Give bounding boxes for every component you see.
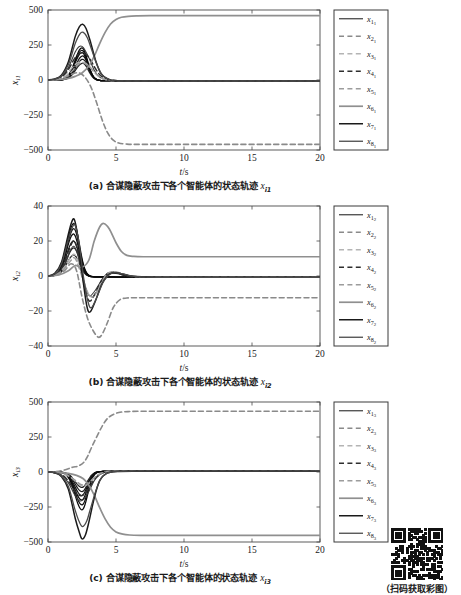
svg-text:10: 10 xyxy=(179,545,189,555)
caption-subscript: i2 xyxy=(265,382,272,390)
caption-subscript: i1 xyxy=(265,186,272,194)
svg-text:500: 500 xyxy=(29,5,44,15)
svg-text:0: 0 xyxy=(38,271,43,281)
svg-text:−250: −250 xyxy=(23,110,43,120)
svg-text:10: 10 xyxy=(179,349,189,359)
svg-text:20: 20 xyxy=(315,153,325,163)
panel-caption-b: (b) 合谋隐蔽攻击下各个智能体的状态轨迹 xi2 xyxy=(0,374,360,390)
svg-text:−20: −20 xyxy=(28,306,43,316)
svg-text:15: 15 xyxy=(247,349,257,359)
svg-text:t/s: t/s xyxy=(180,559,189,569)
svg-text:t/s: t/s xyxy=(180,167,189,177)
qr-caption: （扫码获取彩图） xyxy=(374,582,460,595)
svg-text:xi2: xi2 xyxy=(9,271,21,282)
svg-text:5: 5 xyxy=(114,349,119,359)
caption-subscript: i3 xyxy=(264,578,271,586)
chart-panel-b: 05101520−40−2002040t/sxi2x12x22x32x42x52… xyxy=(0,196,461,391)
svg-text:20: 20 xyxy=(315,349,325,359)
svg-text:0: 0 xyxy=(38,75,43,85)
svg-text:t/s: t/s xyxy=(180,363,189,373)
svg-text:10: 10 xyxy=(179,153,189,163)
svg-text:5: 5 xyxy=(114,545,119,555)
svg-text:15: 15 xyxy=(247,153,257,163)
chart-svg-a: 05101520−500−2500250500t/sxi1x11x21x31x4… xyxy=(0,0,461,178)
svg-text:15: 15 xyxy=(247,545,257,555)
chart-svg-b: 05101520−40−2002040t/sxi2x12x22x32x42x52… xyxy=(0,196,461,374)
svg-text:20: 20 xyxy=(315,545,325,555)
panel-caption-c: (c) 合谋隐蔽攻击下各个智能体的状态轨迹 xi3 xyxy=(0,570,360,586)
svg-text:−40: −40 xyxy=(28,341,43,351)
svg-text:−250: −250 xyxy=(23,502,43,512)
svg-text:0: 0 xyxy=(46,153,51,163)
svg-text:−500: −500 xyxy=(23,537,43,547)
svg-text:xi1: xi1 xyxy=(9,75,21,86)
svg-text:0: 0 xyxy=(46,349,51,359)
svg-text:250: 250 xyxy=(29,432,44,442)
qr-code-block: （扫码获取彩图） xyxy=(374,528,460,595)
qr-code[interactable] xyxy=(391,528,443,580)
svg-text:250: 250 xyxy=(29,40,44,50)
panel-caption-a: (a) 合谋隐蔽攻击下各个智能体的状态轨迹 xi1 xyxy=(0,178,360,194)
svg-text:0: 0 xyxy=(46,545,51,555)
svg-text:500: 500 xyxy=(29,397,44,407)
svg-text:xi3: xi3 xyxy=(9,467,21,478)
chart-panel-a: 05101520−500−2500250500t/sxi1x11x21x31x4… xyxy=(0,0,461,195)
svg-text:20: 20 xyxy=(34,236,44,246)
svg-text:−500: −500 xyxy=(23,145,43,155)
svg-text:0: 0 xyxy=(38,467,43,477)
svg-text:40: 40 xyxy=(34,201,44,211)
svg-text:5: 5 xyxy=(114,153,119,163)
